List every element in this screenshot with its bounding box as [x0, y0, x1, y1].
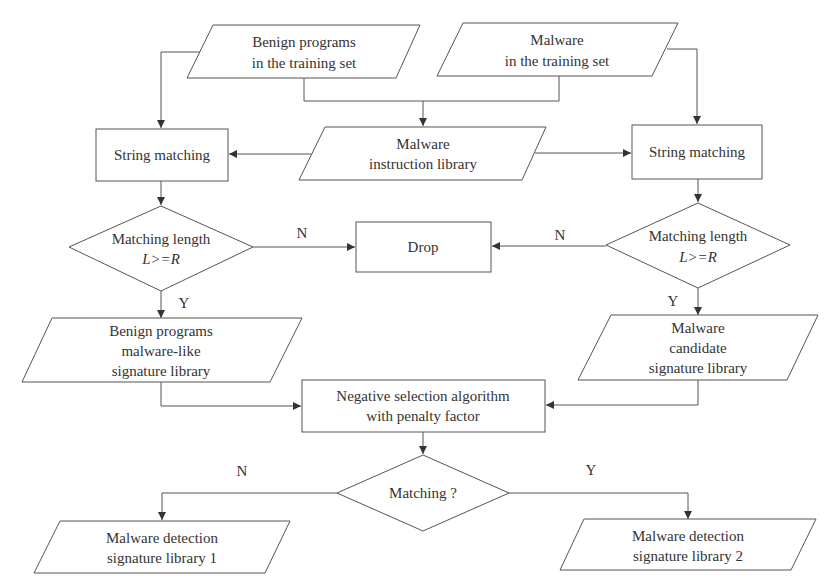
edge-label-left-yes: Y — [179, 295, 190, 311]
edge-candidate-library-to-nsa — [546, 380, 698, 405]
node-label-line: Malware detection — [106, 530, 219, 546]
node-label-line: Benign programs — [109, 323, 213, 339]
node-label-line: signature library 2 — [633, 548, 743, 564]
node-label-line: signature library 1 — [107, 550, 217, 566]
node-instruction-library: Malware instruction library — [299, 127, 546, 180]
edge-label-match-yes: Y — [586, 462, 597, 478]
node-label-line: in the training set — [252, 55, 357, 71]
edge-benign-to-join — [304, 76, 559, 101]
node-matching-check: Matching ? — [337, 455, 509, 531]
node-label-line: Matching ? — [389, 485, 457, 501]
node-label-line: L>=R — [678, 249, 717, 265]
node-label-line: Benign programs — [252, 34, 356, 50]
node-string-matching-right: String matching — [632, 125, 762, 179]
node-length-check-right: Matching length L>=R — [606, 203, 790, 288]
node-label-line: Drop — [408, 239, 439, 255]
node-label-line: String matching — [649, 144, 746, 160]
edge-matching-to-library-1 — [162, 493, 337, 520]
node-malware-training: Malware in the training set — [437, 23, 678, 76]
edge-label-left-no: N — [297, 225, 308, 241]
node-benign-training: Benign programs in the training set — [187, 25, 420, 78]
node-label-line: L>=R — [141, 251, 180, 267]
node-label-line: Malware — [530, 32, 584, 48]
connectors — [161, 49, 698, 520]
node-label-line: instruction library — [369, 156, 477, 172]
node-label-line: Malware — [396, 136, 450, 152]
node-label-line: Malware detection — [632, 528, 745, 544]
edge-label-right-no: N — [555, 227, 566, 243]
node-label-line: Malware — [671, 320, 725, 336]
node-negative-selection: Negative selection algorithm with penalt… — [302, 380, 545, 432]
node-label-line: with penalty factor — [366, 408, 479, 424]
flowchart-canvas: Benign programs in the training set Malw… — [0, 0, 839, 587]
node-label-line: candidate — [669, 340, 727, 356]
edge-label-match-no: N — [237, 463, 248, 479]
node-candidate-library: Malware candidate signature library — [578, 315, 818, 380]
node-label-line: signature library — [649, 360, 748, 376]
node-benign-like-library: Benign programs malware-like signature l… — [22, 318, 302, 382]
node-label-line: in the training set — [505, 53, 610, 69]
node-label-line: Matching length — [649, 228, 748, 244]
edge-label-right-yes: Y — [668, 293, 679, 309]
node-label-line: Matching length — [112, 231, 211, 247]
node-detection-library-2: Malware detection signature library 2 — [560, 519, 816, 570]
edge-benign-library-to-nsa — [161, 382, 301, 406]
node-label-line: malware-like — [121, 343, 200, 359]
node-label-line: Negative selection algorithm — [336, 388, 510, 404]
node-string-matching-left: String matching — [96, 129, 228, 181]
edge-matching-to-library-2 — [509, 493, 688, 519]
node-length-check-left: Matching length L>=R — [69, 206, 253, 291]
node-detection-library-1: Malware detection signature library 1 — [34, 521, 290, 573]
node-label-line: String matching — [114, 147, 211, 163]
node-label-line: signature library — [112, 363, 211, 379]
node-drop: Drop — [356, 222, 491, 272]
edge-malware-to-string-right — [667, 49, 697, 124]
